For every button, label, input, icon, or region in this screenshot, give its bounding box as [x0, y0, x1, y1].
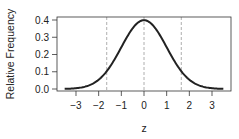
y-tick-label: 0.2 [35, 49, 49, 60]
x-tick-label: 1 [164, 100, 170, 111]
y-tick-label: 0.0 [35, 84, 49, 95]
x-axis: −3−2−10123 [70, 91, 215, 111]
x-tick-label: −3 [70, 100, 82, 111]
x-tick-label: 2 [187, 100, 193, 111]
x-tick-label: −1 [116, 100, 128, 111]
x-tick-label: 0 [141, 100, 147, 111]
normal-density-chart: −3−2−10123 0.00.10.20.30.4 z Relative Fr… [0, 0, 239, 139]
x-axis-label: z [141, 122, 146, 134]
y-tick-label: 0.4 [35, 15, 49, 26]
x-tick-label: 3 [209, 100, 215, 111]
y-axis-label: Relative Frequency [4, 8, 16, 99]
x-tick-label: −2 [93, 100, 105, 111]
y-tick-label: 0.1 [35, 66, 49, 77]
y-tick-label: 0.3 [35, 32, 49, 43]
y-axis: 0.00.10.20.30.4 [35, 15, 57, 95]
